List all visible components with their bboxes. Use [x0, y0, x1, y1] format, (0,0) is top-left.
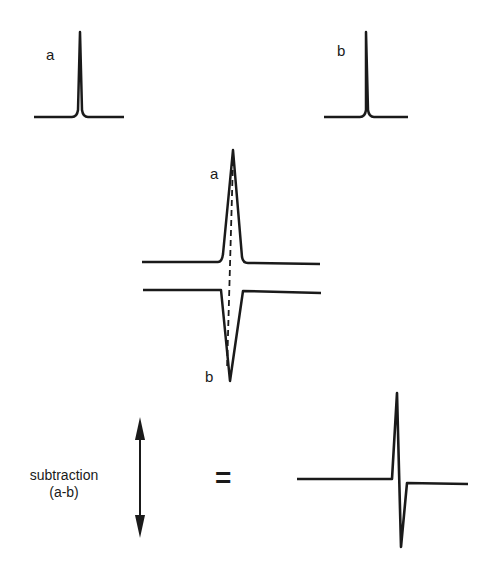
arrow-up-head-icon — [135, 417, 145, 440]
overlay-label-b: b — [205, 369, 213, 384]
result-trace — [297, 393, 468, 547]
overlay-label-a: a — [210, 166, 218, 181]
subtraction-label-line2: (a-b) — [24, 484, 104, 501]
overlay-trace-a — [142, 150, 320, 264]
subtraction-label: subtraction (a-b) — [24, 467, 104, 501]
peak-a-label: a — [46, 47, 54, 62]
arrow-down-head-icon — [135, 515, 145, 538]
peak-a-curve — [34, 32, 124, 117]
peak-b-label: b — [337, 43, 345, 58]
overlay-trace-b — [143, 290, 321, 381]
equals-sign: = — [215, 464, 231, 492]
subtraction-label-line1: subtraction — [24, 467, 104, 484]
